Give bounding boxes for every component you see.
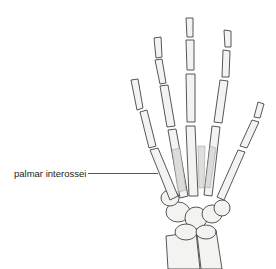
thumb-proximal-phalanx: [140, 110, 156, 148]
little-distal-phalanx: [254, 102, 264, 118]
ring-middle-phalanx: [222, 50, 230, 77]
carpal-bone: [196, 225, 216, 239]
palmar-interosseous-muscle: [172, 148, 186, 192]
index-middle-phalanx: [155, 59, 166, 84]
index-proximal-phalanx: [160, 85, 175, 127]
little-metacarpal: [217, 150, 245, 200]
hand-skeleton-illustration: [0, 0, 276, 269]
middle-middle-phalanx: [186, 40, 194, 70]
palmar-interossei-label: palmar interossei: [14, 168, 86, 179]
middle-metacarpal: [186, 126, 198, 196]
ring-distal-phalanx: [224, 30, 231, 47]
label-leader-line: [88, 173, 158, 174]
index-distal-phalanx: [154, 37, 162, 58]
ring-proximal-phalanx: [214, 80, 228, 123]
thumb-distal-phalanx: [131, 79, 143, 110]
carpal-bone: [175, 224, 197, 240]
middle-distal-phalanx: [186, 18, 193, 37]
palmar-interosseous-muscle: [198, 146, 205, 188]
carpal-bone: [214, 200, 230, 216]
hand-anatomy-figure: palmar interossei: [0, 0, 276, 269]
middle-proximal-phalanx: [186, 74, 195, 122]
little-proximal-phalanx: [240, 120, 259, 148]
